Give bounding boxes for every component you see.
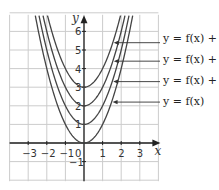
legend-label-f-plus-2: y = f(x) + 2 xyxy=(163,53,219,66)
y-tick-label: 4 xyxy=(75,64,81,75)
legend-label-f-plus-1: y = f(x) + 1 xyxy=(163,74,219,87)
x-tick-label: 3 xyxy=(137,148,143,159)
x-tick-label: 1 xyxy=(100,148,106,159)
pointer-arrow-icon xyxy=(113,79,118,83)
legend-label-f: y = f(x) xyxy=(163,95,204,108)
pointer-arrow-icon xyxy=(114,59,119,63)
x-tick-label: −2 xyxy=(41,148,56,159)
y-axis-label: y xyxy=(71,11,79,25)
y-tick-label: 6 xyxy=(75,26,81,37)
legend-label-f-plus-3: y = f(x) + 3 xyxy=(163,32,219,45)
x-tick-label: −3 xyxy=(22,148,37,159)
pointer-arrow-icon xyxy=(113,100,118,104)
x-axis-label: x xyxy=(154,144,161,158)
y-tick-label: −1 xyxy=(69,157,84,168)
chart: −3−2−10123−1123456xy y = f(x) + 3 y = f(… xyxy=(0,0,219,190)
y-tick-label: 5 xyxy=(75,45,81,56)
x-tick-label: 2 xyxy=(118,148,124,159)
pointer-arrow-icon xyxy=(114,41,119,45)
y-axis-arrow-icon xyxy=(81,15,88,23)
